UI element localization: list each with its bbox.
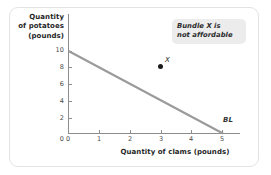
y-axis-title-line-1: Quantity — [8, 13, 64, 22]
budget-line-label: BL — [223, 116, 233, 124]
y-axis-title-line-3: (pounds) — [8, 32, 64, 41]
bundle-x-callout-text: Bundle X is not affordable — [177, 22, 241, 40]
x-axis-title: Quantity of clams (pounds) — [95, 148, 255, 156]
figure-root: 10 8 6 4 2 0 0 1 2 3 4 5 BL X Quantity o… — [0, 0, 271, 175]
y-axis-title: Quantity of potatoes (pounds) — [8, 13, 64, 41]
bundle-x-point-label: X — [165, 56, 170, 64]
plot-area: 10 8 6 4 2 0 0 1 2 3 4 5 BL X Quantity o… — [0, 0, 271, 175]
y-axis-title-line-2: of potatoes — [8, 22, 64, 31]
bundle-x-point — [158, 64, 163, 69]
bundle-x-callout: Bundle X is not affordable — [172, 19, 246, 44]
